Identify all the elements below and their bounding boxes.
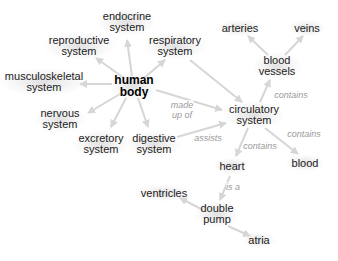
edge-label-line1: assists [194, 133, 222, 143]
node-musculoskeletal[interactable]: musculoskeletalsystem [0, 68, 89, 96]
node-reproductive[interactable]: reproductivesystem [43, 32, 116, 60]
edge-label-line1: contains [287, 129, 321, 139]
node-label-line2: system [78, 144, 123, 155]
edge-label-line1: contains [274, 90, 308, 100]
node-atria[interactable]: atria [242, 232, 275, 249]
node-heart[interactable]: heart [213, 158, 250, 175]
node-label-line2: system [149, 46, 201, 57]
node-label-line2: vessels [259, 66, 296, 77]
node-label-line1: arteries [222, 23, 259, 34]
node-label-line2: system [132, 144, 175, 155]
node-veins[interactable]: veins [288, 20, 326, 37]
edge-label-contains-blood: contains [287, 129, 321, 139]
edge-label-line1: contains [243, 141, 277, 151]
node-arteries[interactable]: arteries [216, 20, 265, 37]
node-human-body[interactable]: humanbody [108, 71, 159, 101]
edge-respiratory-to-circulatory [190, 60, 242, 102]
node-respiratory[interactable]: respiratorysystem [143, 32, 207, 60]
node-label-line2: body [114, 86, 153, 98]
node-digestive[interactable]: digestivesystem [126, 130, 181, 158]
node-label-line1: ventricles [141, 188, 187, 199]
node-ventricles[interactable]: ventricles [135, 185, 193, 202]
edge-circulatory-to-blood-vessels [260, 80, 270, 102]
node-label-line2: system [40, 119, 79, 130]
edge-label-assists: assists [194, 133, 222, 143]
edge-label-line2: up of [171, 110, 194, 120]
node-label-line2: system [229, 115, 279, 126]
edge-human-body-to-excretory [111, 98, 126, 127]
node-blood[interactable]: blood [286, 155, 325, 172]
node-excretory[interactable]: excretorysystem [72, 130, 129, 158]
node-label-line2: system [49, 46, 110, 57]
edge-label-contains-heart: contains [243, 141, 277, 151]
node-label-line1: heart [219, 161, 244, 172]
node-circulatory[interactable]: circulatorysystem [223, 101, 285, 129]
edge-label-contains-vessels: contains [274, 90, 308, 100]
node-label-line2: system [5, 82, 83, 93]
node-nervous[interactable]: nervoussystem [34, 105, 85, 133]
node-label-line2: pump [200, 214, 233, 225]
node-label-line1: veins [294, 23, 320, 34]
node-label-line1: blood [292, 158, 319, 169]
edge-label-line1: is a [226, 182, 240, 192]
edge-label-made-up-of: madeup of [171, 100, 194, 120]
node-double-pump[interactable]: doublepump [194, 200, 239, 228]
node-label-line1: atria [248, 235, 269, 246]
node-blood-vessels[interactable]: bloodvessels [253, 52, 302, 80]
edge-label-is-a: is a [226, 182, 240, 192]
edge-human-body-to-digestive [138, 98, 148, 127]
edge-label-line1: made [171, 100, 194, 110]
